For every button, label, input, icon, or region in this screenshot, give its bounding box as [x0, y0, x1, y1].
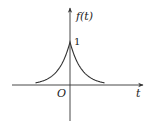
x-axis-label: t	[136, 87, 141, 100]
function-plot: f(t) t O 1	[0, 0, 151, 127]
origin-label: O	[57, 87, 66, 100]
y-axis-label: f(t)	[75, 10, 93, 23]
peak-value-label: 1	[74, 36, 80, 47]
